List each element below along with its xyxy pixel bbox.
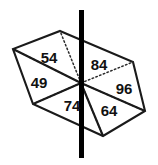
segment-label-54: 54 <box>41 49 58 66</box>
hexagon-diagram-svg: 54 84 49 96 74 64 <box>0 0 158 165</box>
segment-label-74: 74 <box>64 97 81 114</box>
segment-label-96: 96 <box>116 80 133 97</box>
segment-label-64: 64 <box>101 102 118 119</box>
segment-label-49: 49 <box>31 74 48 91</box>
segment-label-84: 84 <box>91 56 108 73</box>
figure-container: 54 84 49 96 74 64 <box>0 0 158 165</box>
